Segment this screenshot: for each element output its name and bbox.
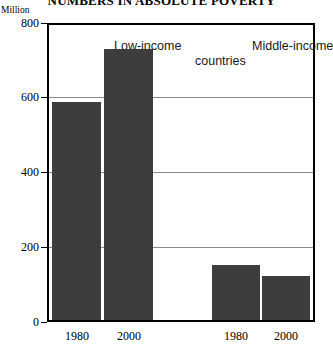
bar-low-income-2000 — [104, 49, 153, 320]
y-tick-label-200: 200 — [21, 241, 39, 253]
y-tick-label-0: 0 — [33, 316, 39, 328]
bar-low-income-1980 — [52, 102, 101, 320]
bar-middle-income-1980 — [212, 265, 260, 320]
group-heading-middle-income: Middle-income — [252, 40, 333, 53]
bar-middle-income-2000 — [262, 276, 310, 320]
x-axis: 1980 2000 1980 2000 — [0, 330, 323, 350]
y-tick-mark-0 — [41, 322, 47, 323]
x-label-low-income-1980: 1980 — [52, 330, 102, 343]
y-axis-unit-label: Million — [1, 5, 30, 15]
y-tick-label-800: 800 — [21, 17, 39, 29]
x-label-middle-income-2000: 2000 — [261, 330, 311, 343]
y-axis: 800 600 400 200 0 — [0, 23, 47, 322]
x-label-middle-income-1980: 1980 — [211, 330, 261, 343]
gridline-600 — [49, 97, 313, 98]
x-label-low-income-2000: 2000 — [104, 330, 154, 343]
plot-area: Low-income Middle-income countries — [47, 23, 315, 322]
y-tick-label-600: 600 — [21, 91, 39, 103]
group-heading-countries: countries — [195, 55, 246, 68]
y-tick-label-400: 400 — [21, 166, 39, 178]
chart-title: NUMBERS IN ABSOLUTE POVERTY — [0, 0, 323, 9]
